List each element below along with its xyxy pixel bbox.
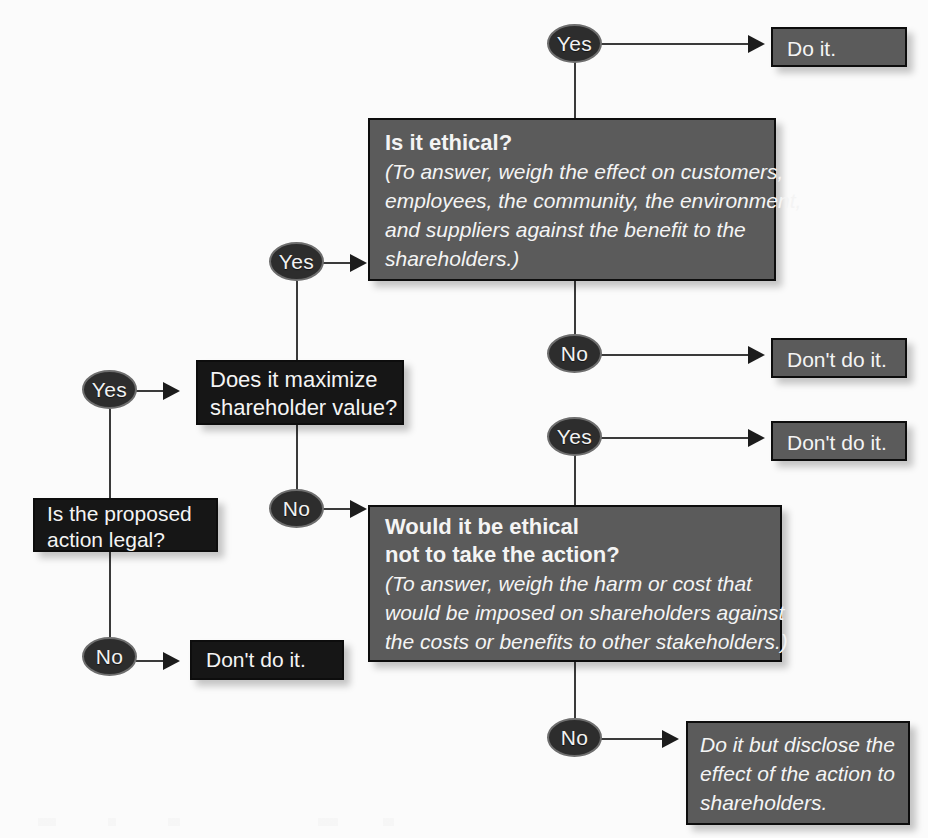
connector-would-ethical-to-no bbox=[574, 661, 576, 718]
decision-does-it-maximize-line-1: Does it maximize bbox=[210, 366, 390, 394]
decision-is-it-ethical-note-line-3: and suppliers against the benefit to the bbox=[385, 215, 760, 244]
decision-is-it-ethical-heading: Is it ethical? bbox=[385, 129, 760, 157]
edge-label-text: No bbox=[561, 726, 589, 750]
flowchart-canvas: Yes No Yes No Yes No Yes No Do it. Is it… bbox=[0, 0, 928, 838]
connector-yes-to-dont-do-it-2 bbox=[601, 437, 749, 439]
decision-is-it-ethical-note-line-2: employees, the community, the environmen… bbox=[385, 186, 760, 215]
outcome-do-it-but-disclose-line-1: Do it but disclose the bbox=[700, 730, 896, 759]
arrow-yes-to-dont-do-it-2 bbox=[748, 429, 765, 447]
decision-would-it-be-ethical-note-line-1: (To answer, weigh the harm or cost that bbox=[385, 569, 766, 598]
outcome-do-it[interactable]: Do it. bbox=[771, 27, 907, 67]
decision-is-it-ethical-body: Is it ethical? (To answer, weigh the eff… bbox=[370, 120, 774, 282]
decision-would-it-be-ethical-note-line-3: the costs or benefits to other stakehold… bbox=[385, 627, 766, 656]
decision-would-it-be-ethical[interactable]: Would it be ethical not to take the acti… bbox=[368, 505, 782, 662]
edge-label-no-is-ethical[interactable]: No bbox=[547, 334, 602, 373]
edge-label-yes-would-be-ethical[interactable]: Yes bbox=[547, 417, 602, 456]
connector-legal-to-no bbox=[109, 551, 111, 637]
outcome-dont-do-it-illegal[interactable]: Don't do it. bbox=[190, 640, 344, 680]
decision-does-it-maximize-body: Does it maximize shareholder value? bbox=[198, 362, 402, 426]
arrow-no-to-dont-do-it-1 bbox=[748, 346, 765, 364]
connector-yes-to-maximize bbox=[136, 390, 164, 392]
outcome-do-it-label: Do it. bbox=[787, 34, 891, 63]
decision-is-the-proposed-action-legal-body: Is the proposed action legal? bbox=[35, 500, 216, 554]
outcome-dont-do-it-ethical-no-label: Don't do it. bbox=[787, 345, 891, 374]
edge-label-no-legal[interactable]: No bbox=[82, 637, 137, 676]
connector-would-ethical-to-yes bbox=[574, 455, 576, 507]
connector-maximize-to-yes bbox=[296, 281, 298, 360]
edge-label-text: No bbox=[561, 342, 589, 366]
decision-is-it-ethical-note-line-4: shareholders.) bbox=[385, 244, 760, 273]
decision-is-it-ethical-note-line-1: (To answer, weigh the effect on customer… bbox=[385, 157, 760, 186]
decision-would-it-be-ethical-heading-line-1: Would it be ethical bbox=[385, 513, 766, 541]
outcome-dont-do-it-illegal-body: Don't do it. bbox=[192, 642, 342, 678]
connector-no-to-would-ethical bbox=[323, 508, 351, 510]
connector-no-to-dont-do-it-3 bbox=[136, 660, 164, 662]
edge-label-yes-maximize[interactable]: Yes bbox=[269, 242, 324, 281]
decision-would-it-be-ethical-note-line-2: would be imposed on shareholders against bbox=[385, 598, 766, 627]
outcome-dont-do-it-ethical-no-body: Don't do it. bbox=[773, 340, 905, 379]
connector-ethical-to-yes bbox=[574, 60, 576, 122]
outcome-do-it-body: Do it. bbox=[773, 29, 905, 68]
edge-label-no-would-be-ethical[interactable]: No bbox=[547, 718, 602, 757]
decision-is-it-ethical[interactable]: Is it ethical? (To answer, weigh the eff… bbox=[368, 118, 776, 281]
outcome-dont-do-it-ethical-no[interactable]: Don't do it. bbox=[771, 338, 907, 378]
edge-label-text: Yes bbox=[279, 250, 314, 274]
arrow-yes-to-is-ethical bbox=[350, 254, 367, 272]
edge-label-text: No bbox=[283, 497, 311, 521]
edge-label-text: Yes bbox=[557, 425, 592, 449]
edge-label-text: No bbox=[96, 645, 124, 669]
arrow-no-to-would-ethical bbox=[350, 500, 367, 518]
edge-label-text: Yes bbox=[92, 378, 127, 402]
edge-label-yes-is-ethical[interactable]: Yes bbox=[547, 24, 602, 63]
connector-ethical-to-no bbox=[574, 280, 576, 334]
page-scan-artifact bbox=[38, 818, 468, 826]
decision-does-it-maximize-line-2: shareholder value? bbox=[210, 394, 390, 422]
connector-yes-to-do-it bbox=[601, 43, 749, 45]
decision-is-the-proposed-action-legal[interactable]: Is the proposed action legal? bbox=[33, 498, 218, 552]
decision-would-it-be-ethical-body: Would it be ethical not to take the acti… bbox=[370, 507, 780, 662]
decision-does-it-maximize-shareholder-value[interactable]: Does it maximize shareholder value? bbox=[196, 360, 404, 425]
outcome-do-it-but-disclose-body: Do it but disclose the effect of the act… bbox=[688, 723, 908, 824]
connector-yes-to-is-ethical bbox=[323, 262, 351, 264]
outcome-dont-do-it-would-be-ethical-yes[interactable]: Don't do it. bbox=[771, 421, 907, 461]
outcome-do-it-but-disclose[interactable]: Do it but disclose the effect of the act… bbox=[686, 721, 910, 825]
decision-is-the-proposed-action-legal-line-2: action legal? bbox=[47, 527, 204, 553]
arrow-no-to-dont-do-it-3 bbox=[163, 652, 180, 670]
connector-maximize-to-no bbox=[296, 424, 298, 490]
outcome-dont-do-it-illegal-label: Don't do it. bbox=[206, 646, 328, 674]
edge-label-no-maximize[interactable]: No bbox=[269, 489, 324, 528]
outcome-dont-do-it-would-be-ethical-yes-label: Don't do it. bbox=[787, 428, 891, 457]
connector-no-to-dont-do-it-1 bbox=[601, 354, 749, 356]
decision-would-it-be-ethical-heading-line-2: not to take the action? bbox=[385, 541, 766, 569]
edge-label-text: Yes bbox=[557, 32, 592, 56]
edge-label-yes-legal[interactable]: Yes bbox=[82, 370, 137, 409]
connector-legal-to-yes bbox=[109, 409, 111, 499]
arrow-no-to-disclose bbox=[662, 730, 679, 748]
outcome-do-it-but-disclose-line-3: shareholders. bbox=[700, 788, 896, 817]
decision-is-the-proposed-action-legal-line-1: Is the proposed bbox=[47, 501, 204, 527]
connector-no-to-disclose bbox=[601, 738, 663, 740]
outcome-dont-do-it-would-be-ethical-yes-body: Don't do it. bbox=[773, 423, 905, 462]
arrow-yes-to-do-it bbox=[748, 35, 765, 53]
arrow-yes-to-maximize bbox=[163, 382, 180, 400]
outcome-do-it-but-disclose-line-2: effect of the action to bbox=[700, 759, 896, 788]
